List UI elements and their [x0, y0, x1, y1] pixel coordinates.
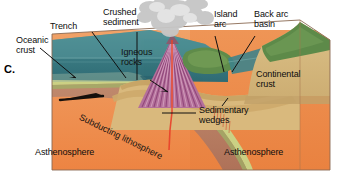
label-asthenosphere-right: Asthenosphere	[224, 148, 283, 158]
figure-canvas: C. Oceanic crust Trench Crushed sediment…	[0, 0, 338, 192]
panel-letter: C.	[4, 63, 15, 75]
label-oceanic-crust: Oceanic crust	[16, 36, 48, 55]
label-trench: Trench	[50, 22, 77, 32]
label-sedimentary-wedges: Sedimentary wedges	[199, 106, 248, 125]
label-continental-crust: Continental crust	[256, 70, 300, 89]
label-island-arc: Island arc	[214, 10, 237, 29]
label-back-arc-basin: Back arc basin	[254, 10, 288, 29]
label-crushed-sediment: Crushed sediment	[103, 8, 139, 27]
label-igneous-rocks: Igneous rocks	[121, 48, 152, 67]
label-asthenosphere-left: Asthenosphere	[35, 148, 94, 158]
